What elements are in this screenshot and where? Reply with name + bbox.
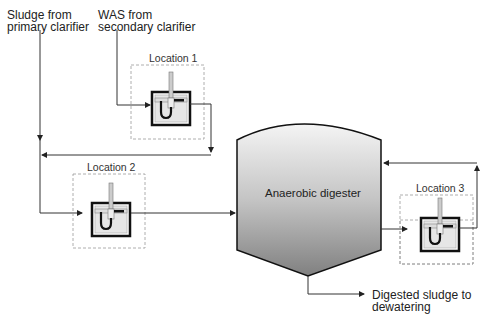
location-3-sampler: [421, 198, 459, 251]
was-label-line2: secondary clarifier: [98, 21, 195, 33]
digester-label: Anaerobic digester: [265, 187, 361, 199]
location-1-sampler: [152, 72, 190, 125]
location-2-sampler: [92, 183, 130, 236]
output-label-line2: dewatering: [372, 301, 431, 313]
anaerobic-digester: [237, 124, 381, 276]
process-diagram: [0, 0, 495, 328]
location-3-label: Location 3: [416, 183, 464, 194]
location-1-label: Location 1: [149, 53, 197, 64]
primary-label-line2: primary clarifier: [7, 21, 89, 33]
location-2-label: Location 2: [87, 162, 135, 173]
